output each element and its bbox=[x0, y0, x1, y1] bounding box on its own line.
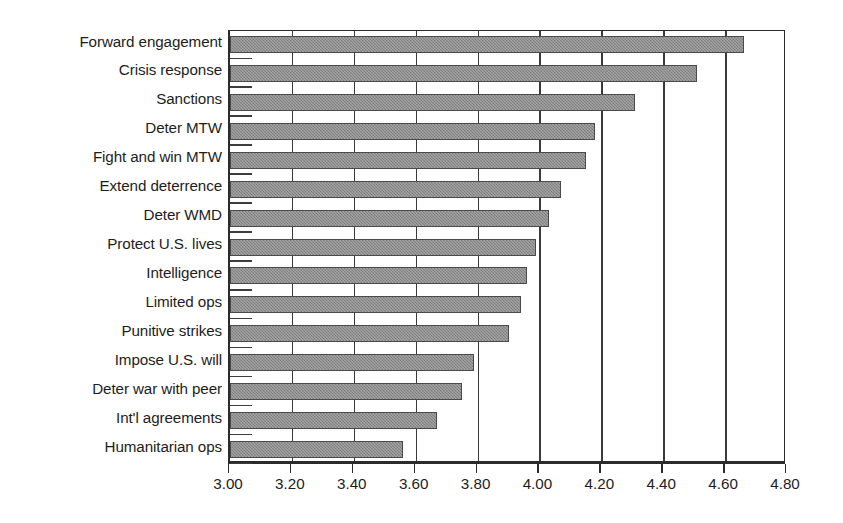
x-axis-tick bbox=[228, 464, 229, 473]
plot-area bbox=[228, 30, 785, 464]
x-axis-tick-label: 3.40 bbox=[337, 474, 367, 494]
x-axis-tick bbox=[290, 464, 291, 473]
category-axis-labels: Forward engagement Crisis response Sanct… bbox=[0, 28, 222, 456]
category-label: Extend deterrence bbox=[0, 177, 222, 194]
category-label: Protect U.S. lives bbox=[0, 235, 222, 252]
bar bbox=[230, 65, 697, 82]
bar bbox=[230, 123, 595, 140]
x-axis-tick bbox=[785, 464, 786, 473]
x-axis-tick-label: 3.80 bbox=[461, 474, 491, 494]
x-axis-tick-label: 3.60 bbox=[399, 474, 429, 494]
bar bbox=[230, 181, 561, 198]
x-axis-tick-label: 4.40 bbox=[646, 474, 676, 494]
category-label: Deter MTW bbox=[0, 119, 222, 136]
bar bbox=[230, 325, 509, 342]
x-axis-tick-label: 4.80 bbox=[770, 474, 800, 494]
category-label: Impose U.S. will bbox=[0, 351, 222, 368]
category-tick bbox=[230, 463, 252, 465]
category-label: Fight and win MTW bbox=[0, 148, 222, 165]
category-label: Forward engagement bbox=[0, 33, 222, 50]
bar bbox=[230, 239, 536, 256]
x-axis-tick-label: 3.00 bbox=[213, 474, 243, 494]
bar bbox=[230, 267, 527, 284]
category-label: Humanitarian ops bbox=[0, 438, 222, 455]
bar bbox=[230, 296, 521, 313]
category-label: Deter war with peer bbox=[0, 380, 222, 397]
bar bbox=[230, 441, 403, 458]
bar bbox=[230, 152, 586, 169]
category-label: Crisis response bbox=[0, 61, 222, 78]
x-axis-tick bbox=[476, 464, 477, 473]
x-axis-tick-label: 4.20 bbox=[585, 474, 615, 494]
x-axis-labels: 3.003.203.403.603.804.004.204.404.604.80 bbox=[0, 474, 843, 504]
category-label: Intelligence bbox=[0, 264, 222, 281]
x-axis-tick bbox=[723, 464, 724, 473]
bar-series bbox=[230, 31, 784, 461]
category-label: Deter WMD bbox=[0, 206, 222, 223]
category-label: Punitive strikes bbox=[0, 322, 222, 339]
x-axis-tick bbox=[414, 464, 415, 473]
x-axis-tick-label: 4.00 bbox=[523, 474, 553, 494]
x-axis-tick-label: 4.60 bbox=[708, 474, 738, 494]
x-axis-tick bbox=[352, 464, 353, 473]
x-axis-tick-label: 3.20 bbox=[275, 474, 305, 494]
x-axis-tick bbox=[599, 464, 600, 473]
category-label: Int'l agreements bbox=[0, 409, 222, 426]
category-label: Sanctions bbox=[0, 90, 222, 107]
horizontal-bar-chart: Forward engagement Crisis response Sanct… bbox=[0, 0, 843, 523]
bar bbox=[230, 94, 635, 111]
category-label: Limited ops bbox=[0, 293, 222, 310]
x-axis-tick bbox=[537, 464, 538, 473]
x-axis-tick bbox=[661, 464, 662, 473]
bar bbox=[230, 383, 462, 400]
bar bbox=[230, 354, 474, 371]
bar bbox=[230, 36, 744, 53]
bar bbox=[230, 412, 437, 429]
bar bbox=[230, 210, 549, 227]
